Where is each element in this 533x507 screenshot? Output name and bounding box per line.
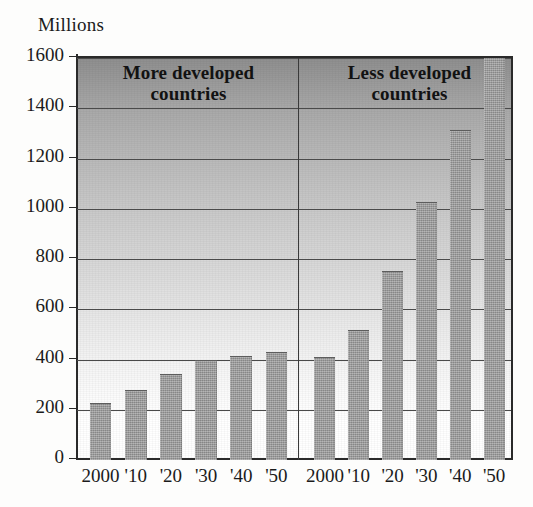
gridline-1600 bbox=[77, 58, 511, 59]
y-tick-200 bbox=[69, 408, 78, 409]
bar-less-developed-20 bbox=[382, 271, 403, 460]
y-tick-label-600: 600 bbox=[6, 295, 64, 317]
panel-title-less-developed: Less developedcountries bbox=[308, 62, 511, 105]
y-tick-800 bbox=[69, 257, 78, 258]
y-tick-label-200: 200 bbox=[6, 396, 64, 418]
y-tick-label-1400: 1400 bbox=[6, 94, 64, 116]
bar-chart-figure: Millions More developedcountriesLess dev… bbox=[0, 0, 533, 507]
bar-less-developed-30 bbox=[416, 202, 437, 461]
bar-less-developed-40 bbox=[450, 130, 471, 460]
y-tick-label-1200: 1200 bbox=[6, 145, 64, 167]
bar-less-developed-10 bbox=[348, 330, 369, 460]
gridline-1000 bbox=[77, 209, 511, 210]
y-tick-1600 bbox=[69, 56, 78, 57]
y-tick-label-0: 0 bbox=[6, 446, 64, 468]
bar-more-developed-10 bbox=[125, 390, 147, 460]
y-tick-400 bbox=[69, 358, 78, 359]
gridline-1400 bbox=[77, 108, 511, 109]
y-tick-label-1600: 1600 bbox=[6, 44, 64, 66]
bar-less-developed-50 bbox=[484, 56, 505, 460]
bar-more-developed-50 bbox=[266, 352, 288, 460]
bar-more-developed-40 bbox=[230, 356, 252, 460]
bar-more-developed-2000 bbox=[90, 403, 112, 461]
plot-area: More developedcountriesLess developedcou… bbox=[77, 56, 513, 460]
panel-title-line: countries bbox=[308, 83, 511, 104]
y-tick-label-800: 800 bbox=[6, 245, 64, 267]
gridline-800 bbox=[77, 259, 511, 260]
gridline-400 bbox=[77, 360, 511, 361]
panel-divider bbox=[298, 58, 299, 460]
panel-title-line: More developed bbox=[83, 62, 294, 83]
y-axis-units-label: Millions bbox=[38, 14, 104, 36]
bar-more-developed-30 bbox=[195, 360, 217, 460]
y-tick-1400 bbox=[69, 106, 78, 107]
x-tick-label-less-developed-50: '50 bbox=[464, 465, 524, 487]
y-tick-0 bbox=[69, 458, 78, 459]
y-tick-600 bbox=[69, 307, 78, 308]
gridline-600 bbox=[77, 309, 511, 310]
panel-title-more-developed: More developedcountries bbox=[83, 62, 294, 105]
bar-less-developed-2000 bbox=[314, 357, 335, 460]
y-tick-1200 bbox=[69, 157, 78, 158]
bar-more-developed-20 bbox=[160, 374, 182, 460]
gridline-1200 bbox=[77, 159, 511, 160]
panel-title-line: countries bbox=[83, 83, 294, 104]
y-tick-label-1000: 1000 bbox=[6, 195, 64, 217]
y-tick-label-400: 400 bbox=[6, 346, 64, 368]
panel-title-line: Less developed bbox=[308, 62, 511, 83]
y-tick-1000 bbox=[69, 207, 78, 208]
